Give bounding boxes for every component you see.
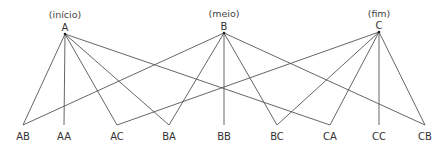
node-aa-label: AA [57, 132, 71, 142]
edge-a-ac [65, 34, 117, 125]
edge-b-cb [224, 33, 425, 125]
edge-b-ba [169, 33, 224, 125]
node-cb-label: CB [418, 132, 432, 142]
edge-c-cb [379, 32, 425, 125]
note-meio: (meio) [209, 9, 240, 19]
edge-a-ca [65, 34, 330, 125]
node-b-dot [223, 32, 226, 35]
node-ca-label: CA [323, 132, 337, 142]
edge-b-bc [224, 33, 277, 125]
edge-b-ab [23, 33, 224, 125]
node-a-label: A [62, 23, 69, 33]
node-b-label: B [221, 22, 228, 32]
node-ac-label: AC [110, 132, 124, 142]
node-cc-label: CC [372, 132, 386, 142]
node-c-label: C [376, 21, 383, 31]
node-ba-label: BA [162, 132, 176, 142]
edge-c-ca [330, 32, 379, 125]
edge-a-ab [23, 34, 65, 125]
node-c-dot [378, 31, 381, 34]
node-ab-label: AB [16, 132, 30, 142]
node-bc-label: BC [270, 132, 284, 142]
note-fim: (fim) [368, 9, 391, 19]
note-inicio: (início) [49, 10, 81, 20]
edge-a-ba [65, 34, 169, 125]
edge-c-ac [117, 32, 379, 125]
edge-c-bc [277, 32, 379, 125]
node-a-dot [64, 33, 67, 36]
node-bb-label: BB [217, 132, 231, 142]
edge-a-aa [64, 34, 65, 125]
